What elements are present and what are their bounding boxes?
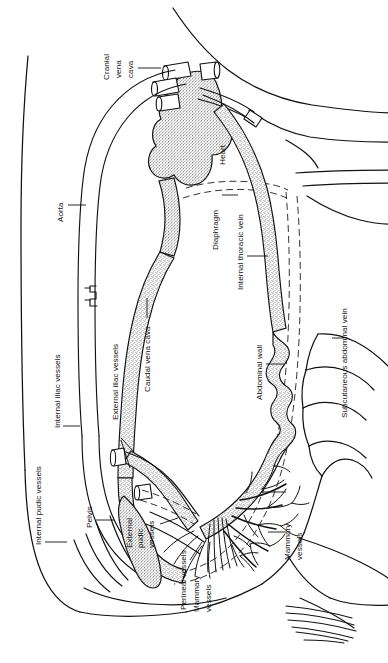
label-heart: Heart	[218, 144, 227, 165]
label-mammary-caudal-line1: Mammary	[192, 575, 201, 612]
label-internal-iliac-vessels-text: Internal iliac vessels	[53, 354, 62, 428]
label-internal-thoracic-vein-text: Internal thoracic vein	[236, 214, 245, 290]
label-abdominal-wall-text: Abdominal wall	[255, 345, 264, 400]
label-external-pudic-line2: pudic	[136, 528, 145, 548]
label-heart-text: Heart	[218, 144, 227, 165]
label-pelvis-text: Pelvis	[85, 506, 94, 528]
label-cranial-vena-cava-line3: cava	[126, 60, 135, 78]
label-external-pudic-line3: vessels	[147, 521, 156, 548]
label-mammary-line1: Mammary	[283, 523, 292, 560]
label-perineal-vessels-text: Perineal vessels	[179, 550, 188, 610]
diagram-canvas: Cranial vena cava Heart Aorta Diaphragm …	[0, 0, 388, 663]
label-external-iliac-vessels-text: External iliac vessels	[111, 344, 120, 420]
label-cranial-vena-cava-line1: Cranial	[102, 54, 111, 80]
label-mammary-caudal-line2: vessels	[204, 585, 213, 612]
label-subcutaneous-abdominal-vein-text: Subcutaneous abdominal vein	[340, 308, 349, 418]
label-aorta-text: Aorta	[56, 202, 65, 222]
label-cranial-vena-cava-line2: vena	[114, 60, 123, 78]
label-caudal-vena-cava-text: Caudal vena cava	[143, 326, 152, 392]
label-internal-pudic-vessels-text: Internal pudic vessels	[34, 466, 43, 545]
label-external-pudic-line1: External	[125, 518, 134, 548]
label-diaphragm-text: Diaphragm	[211, 210, 220, 250]
label-mammary-line2: vessels	[295, 533, 304, 560]
